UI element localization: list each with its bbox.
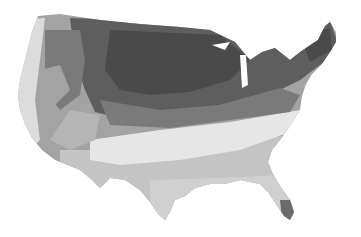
map-canvas bbox=[0, 0, 361, 237]
us-zone-map bbox=[0, 0, 361, 237]
zone-regions bbox=[0, 0, 361, 237]
